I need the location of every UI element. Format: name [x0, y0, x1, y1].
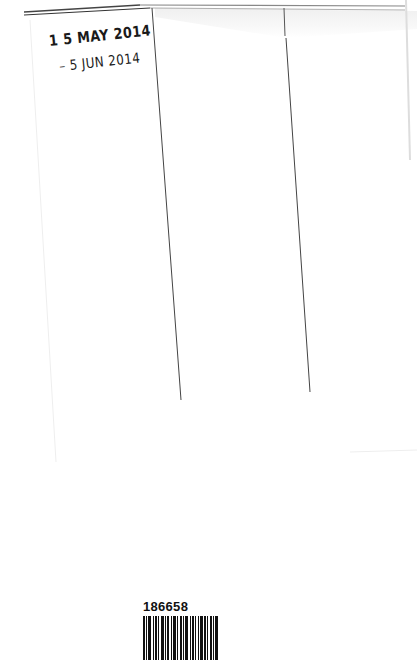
- barcode-bars: [143, 616, 268, 660]
- slip-grid-lines: [0, 0, 417, 663]
- barcode-label: 186658: [143, 600, 268, 660]
- barcode-number: 186658: [143, 600, 268, 614]
- date-due-slip: 1 5 MAY 2014 – 5 JUN 2014 186658: [0, 0, 417, 663]
